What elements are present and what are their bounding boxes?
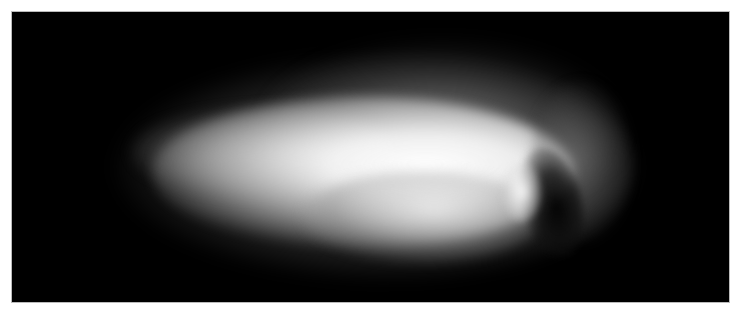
comet-photo xyxy=(11,11,730,303)
sunlit-nucleus-edge xyxy=(502,162,542,222)
